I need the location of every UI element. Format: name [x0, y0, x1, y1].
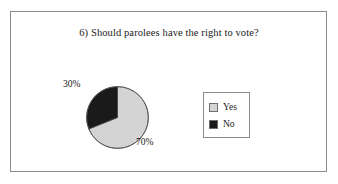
legend-swatch-yes: [209, 103, 218, 112]
legend-item-yes[interactable]: Yes: [209, 99, 249, 115]
pie-label-no: 30%: [63, 79, 80, 90]
figure-container: 6) Should parolees have the right to vot…: [0, 0, 338, 184]
chart-legend: Yes No: [203, 92, 250, 138]
plot-area: 30% 70% Yes No: [10, 11, 327, 172]
pie-label-yes: 70%: [136, 137, 153, 148]
legend-swatch-no: [209, 120, 218, 129]
legend-label-yes: Yes: [223, 102, 237, 112]
legend-label-no: No: [223, 119, 235, 129]
legend-item-no[interactable]: No: [209, 116, 249, 132]
